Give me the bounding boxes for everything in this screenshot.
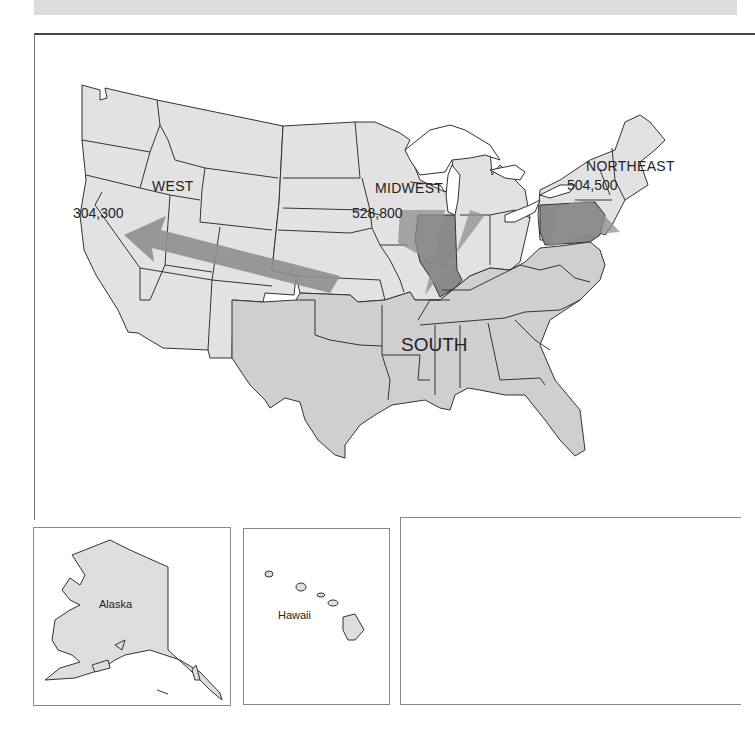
region-label-west: WEST (152, 178, 194, 194)
region-value-midwest: 528,800 (352, 205, 403, 221)
hawaii-inset (243, 528, 390, 705)
region-label-midwest: MIDWEST (375, 180, 443, 196)
region-value-northeast: 504,500 (567, 177, 618, 193)
region-label-south: SOUTH (401, 334, 468, 356)
alaska-inset (33, 527, 231, 706)
inset-label-alaska: Alaska (99, 598, 132, 610)
region-label-northeast: NORTHEAST (586, 158, 675, 174)
inset-label-hawaii: Hawaii (278, 609, 311, 621)
region-value-west: 304,300 (73, 205, 124, 221)
